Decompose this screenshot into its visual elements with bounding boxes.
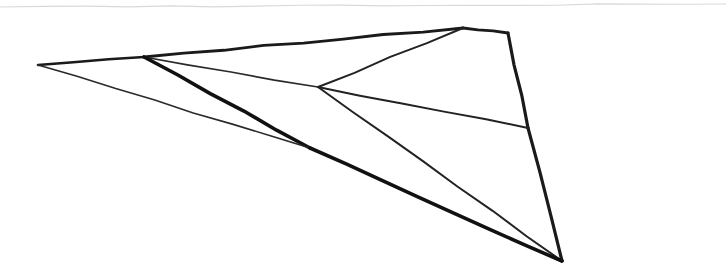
figure-edge-layer — [38, 28, 562, 261]
scan-line-top — [0, 4, 726, 7]
edge-top-left-b — [144, 28, 463, 57]
edge-apex-corner — [463, 28, 508, 33]
edge-top-left-a — [38, 57, 144, 65]
wireframe-figure — [0, 0, 726, 272]
drawing-canvas — [0, 0, 726, 272]
scan-artifact-layer — [0, 4, 726, 7]
edge-hub-apex — [318, 28, 463, 87]
edge-tip-knee — [38, 65, 310, 148]
edge-knee-bottom — [310, 148, 562, 261]
edge-hub-right — [318, 87, 528, 128]
edge-right-upper — [508, 33, 528, 128]
